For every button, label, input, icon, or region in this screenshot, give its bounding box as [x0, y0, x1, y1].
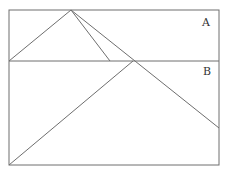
- line-apex-to-left: [9, 10, 71, 61]
- label-region-b: B: [203, 65, 211, 78]
- line-bottom-left-to-divider: [9, 61, 133, 165]
- line-apex-to-divider: [71, 10, 110, 61]
- line-apex-to-right-edge: [71, 10, 219, 128]
- outer-rectangle: [9, 10, 219, 165]
- label-region-a: A: [201, 16, 211, 29]
- geometry-diagram: A B: [0, 0, 234, 172]
